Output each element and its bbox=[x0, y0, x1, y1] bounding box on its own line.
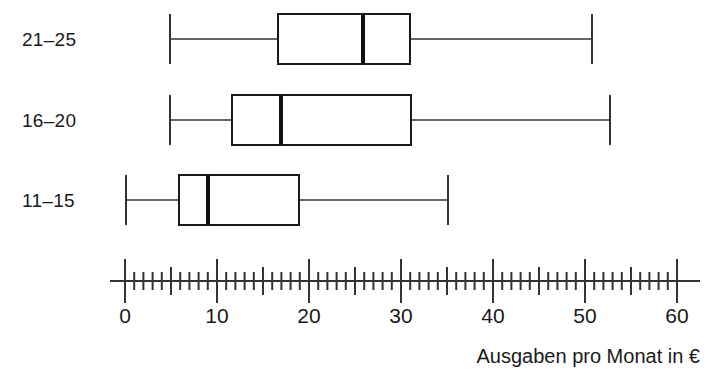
category-label-16-20: 16–20 bbox=[22, 110, 76, 131]
box-iqr-21-25 bbox=[278, 14, 410, 64]
box-iqr-11-15 bbox=[179, 175, 299, 225]
x-tick-label-30: 30 bbox=[389, 304, 412, 327]
boxplot-canvas: 21–25 16–20 11–15 bbox=[0, 0, 708, 390]
x-tick-label-60: 60 bbox=[665, 304, 688, 327]
category-label-21-25: 21–25 bbox=[22, 29, 76, 50]
x-tick-label-40: 40 bbox=[481, 304, 504, 327]
x-tick-label-50: 50 bbox=[573, 304, 596, 327]
x-axis-ticks bbox=[125, 259, 677, 303]
boxplot-series-11-15 bbox=[126, 175, 448, 225]
x-axis: 0102030405060 bbox=[110, 259, 700, 327]
box-iqr-16-20 bbox=[232, 95, 411, 145]
boxplot-series-21-25 bbox=[170, 14, 592, 64]
x-axis-title: Ausgaben pro Monat in € bbox=[477, 345, 701, 367]
x-tick-label-10: 10 bbox=[205, 304, 228, 327]
x-tick-label-20: 20 bbox=[297, 304, 320, 327]
boxplot-chart: 21–25 16–20 11–15 bbox=[0, 0, 708, 390]
x-axis-tick-labels: 0102030405060 bbox=[119, 304, 689, 327]
category-label-11-15: 11–15 bbox=[22, 190, 75, 211]
boxplot-series-16-20 bbox=[170, 95, 610, 145]
x-tick-label-0: 0 bbox=[119, 304, 131, 327]
